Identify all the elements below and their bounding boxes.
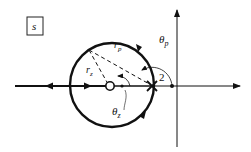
- theta-p-label: θp: [159, 33, 168, 48]
- zero-marker: [106, 82, 114, 90]
- r-z-label: rz: [86, 64, 93, 78]
- theta-z-leader: [124, 90, 126, 110]
- root-locus-diagram: s θp 2 rp rz θz: [0, 0, 251, 152]
- point-value-label: 2: [159, 71, 165, 83]
- theta-p-arc: [142, 67, 172, 86]
- s-plane-label-box: s: [27, 17, 43, 35]
- locus-arrow-left-icon: [45, 83, 53, 90]
- angle-vertex-dot: [120, 84, 123, 87]
- s-plane-label: s: [32, 20, 36, 32]
- r-p-label: rp: [114, 39, 122, 53]
- theta-z-label: θz: [112, 105, 121, 120]
- theta-z-arc: [118, 76, 130, 86]
- locus-arrow-right-icon: [84, 83, 92, 90]
